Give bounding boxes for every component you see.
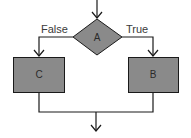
node-b-label: B xyxy=(150,69,157,80)
entry-arrow xyxy=(92,0,102,18)
decision-label: A xyxy=(94,32,101,43)
true-branch-edge: True xyxy=(122,23,158,56)
true-label: True xyxy=(126,23,148,35)
false-branch-edge: False xyxy=(34,23,73,56)
process-node-c: C xyxy=(14,58,65,93)
process-node-b: B xyxy=(129,58,179,93)
node-c-label: C xyxy=(35,69,42,80)
flowchart-svg: A False True C B xyxy=(0,0,191,138)
flowchart-canvas: A False True C B xyxy=(0,0,191,138)
decision-node-a: A xyxy=(73,19,122,55)
false-label: False xyxy=(41,23,68,35)
exit-arrow xyxy=(91,112,101,131)
merge-edge xyxy=(39,93,153,112)
